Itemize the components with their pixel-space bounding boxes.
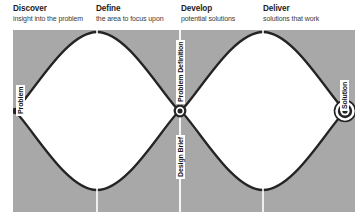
phase-subtitle-discover: insight into the problem xyxy=(13,15,83,22)
phase-subtitle-deliver: solutions that work xyxy=(263,15,319,22)
node-label-solution: Solution xyxy=(340,80,349,111)
phase-title-develop: Develop xyxy=(181,5,235,14)
phase-subtitle-develop: potential solutions xyxy=(181,15,235,22)
node-label-problem-definition: Problem Definition xyxy=(176,40,185,104)
node-label-problem: Problem xyxy=(16,85,25,116)
node-label-design-brief: Design Brief xyxy=(176,135,185,179)
phase-title-deliver: Deliver xyxy=(263,5,319,14)
phase-title-discover: Discover xyxy=(13,5,83,14)
phase-label-deliver: Deliver solutions that work xyxy=(263,5,319,22)
double-diamond-diagram: Discover insight into the problem Define… xyxy=(0,0,364,224)
phase-label-discover: Discover insight into the problem xyxy=(13,5,83,22)
phase-title-define: Define xyxy=(96,5,163,14)
phase-subtitle-define: the area to focus upon xyxy=(96,15,163,22)
node-marker-problem-definition xyxy=(174,105,187,118)
phase-label-develop: Develop potential solutions xyxy=(181,5,235,22)
phase-label-define: Define the area to focus upon xyxy=(96,5,163,22)
